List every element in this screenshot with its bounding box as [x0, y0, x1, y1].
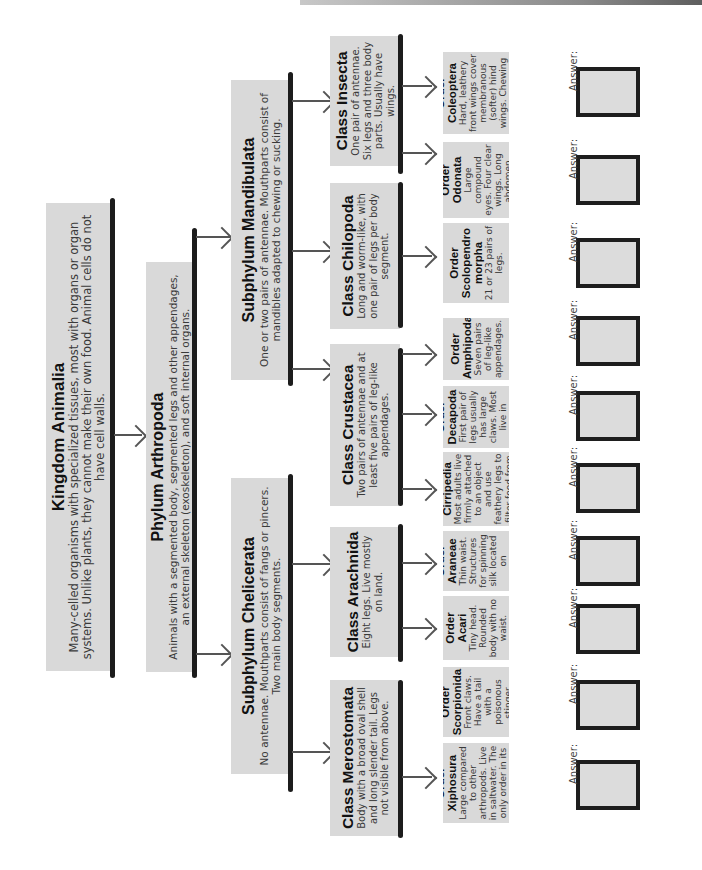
order-label: Order [449, 319, 461, 379]
arrow-icon [415, 246, 438, 269]
order-acari-box: Order Acari Tiny head. Rounded body with… [443, 596, 509, 660]
order-scolopendromorpha-box: Order Scolopendromorpha 21 or 23 pairs o… [443, 223, 509, 303]
arrow-icon [125, 425, 148, 448]
order-label: Order [443, 668, 451, 736]
order-description: Hard, leathery front wings cover membran… [458, 53, 509, 133]
order-description: 21 or 23 pairs of legs. [484, 224, 504, 302]
order-description: Thin waist. Structures for spinning silk… [458, 532, 509, 590]
arrow-icon [415, 479, 438, 502]
phylum-title: Phylum Arthropoda [150, 267, 167, 667]
class-description: Two pairs of antennae and at least five … [356, 347, 391, 503]
answer-box-odonata[interactable]: Answer: [576, 155, 640, 205]
arrow-icon [415, 404, 438, 427]
order-name: Amphipoda [461, 319, 473, 379]
answer-label: Answer: [568, 222, 579, 264]
order-label: Order [444, 597, 456, 659]
page-edge-shadow [300, 0, 702, 5]
answer-box-scolopendromorpha[interactable]: Answer: [576, 238, 640, 288]
class-title: Class Merostomata [340, 683, 356, 833]
order-coleoptera-box: Order Coleoptera Hard, leathery front wi… [443, 52, 509, 134]
subphylum-description: No antennae. Mouthparts consist of fangs… [257, 481, 281, 771]
order-description: Large compound eyes. Four clear wings. L… [463, 143, 509, 217]
order-name: Cirripedia [443, 453, 453, 525]
class-title: Class Chilopoda [340, 186, 356, 326]
class-bar [398, 524, 403, 662]
subphylum-description: One or two pairs of antennae. Mouthparts… [257, 85, 281, 375]
order-cirripedia-box: Order Cirripedia Most adults live firmly… [443, 452, 509, 526]
phylum-description: Animals with a segmented body, segmented… [166, 267, 190, 667]
order-scorpionida-box: Order Scorpionida Front claws. Have a ta… [443, 667, 509, 737]
class-description: One pair of antennae. Six legs and three… [350, 39, 396, 163]
kingdom-title: Kingdom Animalia [50, 207, 68, 667]
class-title: Class Arachnida [345, 530, 361, 654]
answer-label: Answer: [568, 51, 579, 93]
answer-label: Answer: [568, 664, 579, 706]
class-description: Eight legs. Live mostly on land. [362, 530, 385, 654]
order-description: Large compared to other arthropods. Live… [458, 744, 509, 822]
answer-box-xiphosura[interactable]: Answer: [576, 760, 640, 810]
answer-label: Answer: [568, 139, 579, 181]
arrow-icon [415, 767, 438, 790]
answer-box-scorpionida[interactable]: Answer: [576, 680, 640, 730]
class-title: Class Crustacea [340, 347, 356, 503]
kingdom-bar [110, 198, 115, 678]
order-description: Most adults live firmly attached to an o… [453, 453, 509, 525]
arrow-icon [415, 553, 438, 576]
order-xiphosura-box: Order Xiphosura Large compared to other … [443, 743, 509, 823]
order-description: First pair of legs usually has large cla… [458, 387, 509, 447]
answer-box-cirripedia[interactable]: Answer: [576, 463, 640, 513]
class-bar [398, 348, 403, 506]
answer-label: Answer: [568, 520, 579, 562]
order-name: Acari [456, 597, 468, 659]
subphylum-title: Subphylum Chelicerata [241, 481, 258, 771]
phylum-box: Phylum Arthropoda Animals with a segment… [146, 262, 194, 672]
arrow-icon [211, 227, 234, 250]
answer-label: Answer: [568, 744, 579, 786]
arrow-icon [415, 76, 438, 99]
class-description: Body with a broad oval shell and long sl… [356, 683, 391, 833]
order-name: Odonata [451, 143, 463, 217]
class-chilopoda-box: Class Chilopoda Long and worm-like, with… [330, 183, 400, 329]
answer-box-coleoptera[interactable]: Answer: [576, 67, 640, 117]
order-name: Xiphosura [446, 744, 458, 822]
order-label: Order [448, 224, 460, 302]
arrow-icon [415, 344, 438, 367]
class-arachnida-box: Class Arachnida Eight legs. Live mostly … [330, 527, 400, 657]
subphylum-chelicerata-bar [288, 474, 293, 792]
answer-box-amphipoda[interactable]: Answer: [576, 316, 640, 366]
order-description: Tiny head. Rounded body with no waist. [468, 597, 508, 659]
class-merostomata-box: Class Merostomata Body with a broad oval… [330, 680, 400, 836]
order-decapoda-box: Order Decapoda First pair of legs usuall… [443, 386, 509, 448]
order-name: Araneae [446, 532, 458, 590]
arrow-icon [415, 618, 438, 641]
answer-label: Answer: [568, 300, 579, 342]
answer-box-acari[interactable]: Answer: [576, 604, 640, 654]
kingdom-description: Many-celled organisms with specialized t… [68, 207, 108, 667]
order-name: Scolopendromorpha [460, 224, 484, 302]
order-amphipoda-box: Order Amphipoda Seven pairs of leg-like … [443, 318, 509, 380]
class-bar [398, 680, 403, 838]
order-odonata-box: Order Odonata Large compound eyes. Four … [443, 142, 509, 218]
answer-label: Answer: [568, 447, 579, 489]
class-description: Long and worm-like, with one pair of leg… [356, 186, 391, 326]
subphylum-mandibulata-bar [288, 72, 293, 386]
answer-box-araneae[interactable]: Answer: [576, 536, 640, 586]
order-name: Decapoda [446, 387, 458, 447]
class-insecta-box: Class Insecta One pair of antennae. Six … [330, 36, 400, 166]
subphylum-title: Subphylum Mandibulata [241, 85, 258, 375]
answer-box-decapoda[interactable]: Answer: [576, 391, 640, 441]
order-description: Front claws. Have a tail with a poisonou… [463, 668, 509, 736]
order-description: Seven pairs of leg-like appendages. [473, 319, 503, 379]
order-label: Order [443, 143, 451, 217]
class-title: Class Insecta [334, 39, 350, 163]
arrow-icon [415, 143, 438, 166]
subphylum-mandibulata-box: Subphylum Mandibulata One or two pairs o… [231, 80, 291, 380]
answer-label: Answer: [568, 375, 579, 417]
phylum-bar [192, 228, 197, 678]
kingdom-box: Kingdom Animalia Many-celled organisms w… [46, 203, 112, 671]
answer-label: Answer: [568, 588, 579, 630]
order-name: Coleoptera [446, 53, 458, 133]
arrow-icon [211, 644, 234, 667]
order-name: Scorpionida [451, 668, 463, 736]
order-araneae-box: Order Araneae Thin waist. Structures for… [443, 531, 509, 591]
